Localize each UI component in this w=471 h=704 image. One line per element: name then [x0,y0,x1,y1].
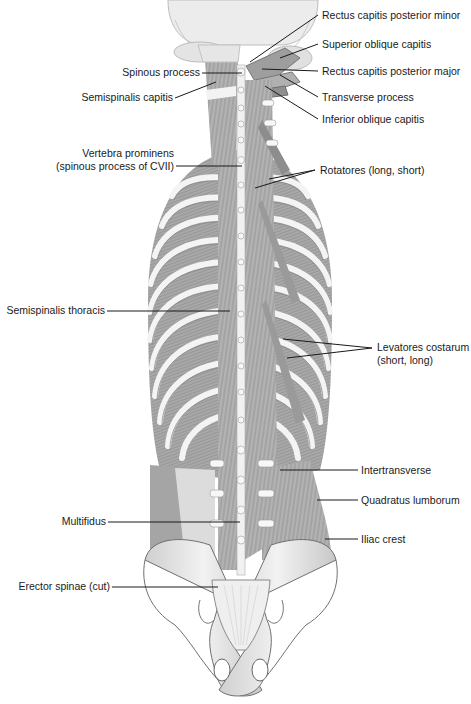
label-semispinalis-thoracis: Semispinalis thoracis [6,304,105,317]
label-transverse-process: Transverse process [322,91,414,104]
label-vertebra-prominens-line2: (spinous process of CVII) [56,160,174,173]
semispinalis-thoracis-muscle [218,150,238,570]
label-inferior-oblique-capitis: Inferior oblique capitis [322,113,424,126]
label-levatores-costarum-line1: Levatores costarum [377,341,469,354]
label-multifidus: Multifidus [62,515,106,528]
label-quadratus-lumborum: Quadratus lumborum [361,494,460,507]
label-vertebra-prominens-line1: Vertebra prominens [56,147,174,160]
label-levatores-costarum: Levatores costarum (short, long) [377,341,469,366]
label-semispinalis-capitis: Semispinalis capitis [81,91,173,104]
label-levatores-costarum-line2: (short, long) [377,354,469,367]
label-rotatores: Rotatores (long, short) [320,164,424,177]
label-erector-spinae: Erector spinae (cut) [18,580,110,593]
label-superior-oblique-capitis: Superior oblique capitis [322,38,431,51]
semispinalis-capitis-muscle [198,45,240,165]
label-rectus-capitis-posterior-minor: Rectus capitis posterior minor [322,9,460,22]
label-spinous-process: Spinous process [122,66,200,79]
label-vertebra-prominens: Vertebra prominens (spinous process of C… [56,147,174,172]
label-iliac-crest: Iliac crest [361,533,405,546]
label-intertransverse: Intertransverse [361,464,431,477]
label-rectus-capitis-posterior-major: Rectus capitis posterior major [322,65,460,78]
